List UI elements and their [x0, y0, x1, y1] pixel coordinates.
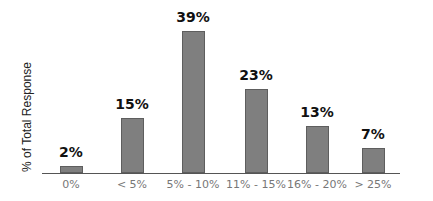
x-tick-label: > 25%	[338, 178, 408, 191]
bar-value-label: 15%	[102, 96, 162, 112]
bar	[362, 148, 385, 173]
x-tick-label: 5% - 10%	[158, 178, 228, 191]
x-tick-label: 0%	[36, 178, 106, 191]
x-tick-label: < 5%	[97, 178, 167, 191]
bar	[245, 89, 268, 173]
bar-value-label: 39%	[163, 9, 223, 25]
x-axis-line	[42, 173, 400, 174]
bar	[121, 118, 144, 173]
bar	[60, 166, 83, 173]
bar-value-label: 13%	[287, 104, 347, 120]
bar	[306, 126, 329, 173]
y-axis-label: % of Total Response	[20, 52, 34, 182]
bar	[182, 31, 205, 173]
bar-value-label: 7%	[343, 126, 403, 142]
bar-value-label: 23%	[226, 67, 286, 83]
bar-value-label: 2%	[41, 144, 101, 160]
x-tick-label: 11% - 15%	[221, 178, 291, 191]
